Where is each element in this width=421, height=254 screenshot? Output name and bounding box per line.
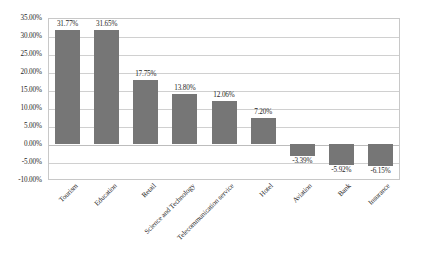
y-axis-tick-label: -10.00% xyxy=(18,176,42,184)
bar xyxy=(133,80,158,144)
bar xyxy=(329,144,354,165)
bar xyxy=(172,94,197,144)
bar-value-label: 31.65% xyxy=(84,20,130,28)
bar-value-label: -3.39% xyxy=(279,157,325,165)
y-axis-tick-label: 35.00% xyxy=(20,14,42,22)
bar-chart: 35.00%30.00%25.00%20.00%15.00%10.00%5.00… xyxy=(0,0,421,254)
y-axis-tick-label: 5.00% xyxy=(24,122,42,130)
bars-layer: 31.77%31.65%17.75%13.80%12.06%7.20%-3.39… xyxy=(48,18,400,180)
bar-value-label: 12.06% xyxy=(201,91,247,99)
x-axis-tick-label: Hotel xyxy=(258,182,275,199)
y-axis-tick-label: 15.00% xyxy=(20,86,42,94)
bar xyxy=(251,118,276,144)
x-axis-tick-label: Tourism xyxy=(57,182,79,204)
bar xyxy=(212,101,237,144)
y-axis: 35.00%30.00%25.00%20.00%15.00%10.00%5.00… xyxy=(0,18,45,180)
x-axis-tick-label: Education xyxy=(93,182,119,208)
x-axis-tick-label: Insurance xyxy=(367,182,392,207)
bar-value-label: 17.75% xyxy=(123,70,169,78)
y-axis-tick-label: 30.00% xyxy=(20,32,42,40)
y-axis-tick-label: 10.00% xyxy=(20,104,42,112)
y-axis-tick-label: 0.00% xyxy=(24,140,42,148)
x-axis-tick-label: Bank xyxy=(337,182,353,198)
y-axis-tick-label: 25.00% xyxy=(20,50,42,58)
x-axis-tick-label: Retail xyxy=(140,182,157,199)
bar-value-label: 7.20% xyxy=(240,108,286,116)
bar xyxy=(94,30,119,144)
y-axis-tick-label: 20.00% xyxy=(20,68,42,76)
x-axis-tick-label: Aviation xyxy=(291,182,314,205)
x-axis: TourismEducationRetailScience and Techno… xyxy=(48,182,400,254)
bar xyxy=(55,30,80,144)
bar-value-label: -6.15% xyxy=(357,167,403,175)
bar xyxy=(290,144,315,156)
bar xyxy=(368,144,393,166)
y-axis-tick-label: -5.00% xyxy=(22,158,42,166)
